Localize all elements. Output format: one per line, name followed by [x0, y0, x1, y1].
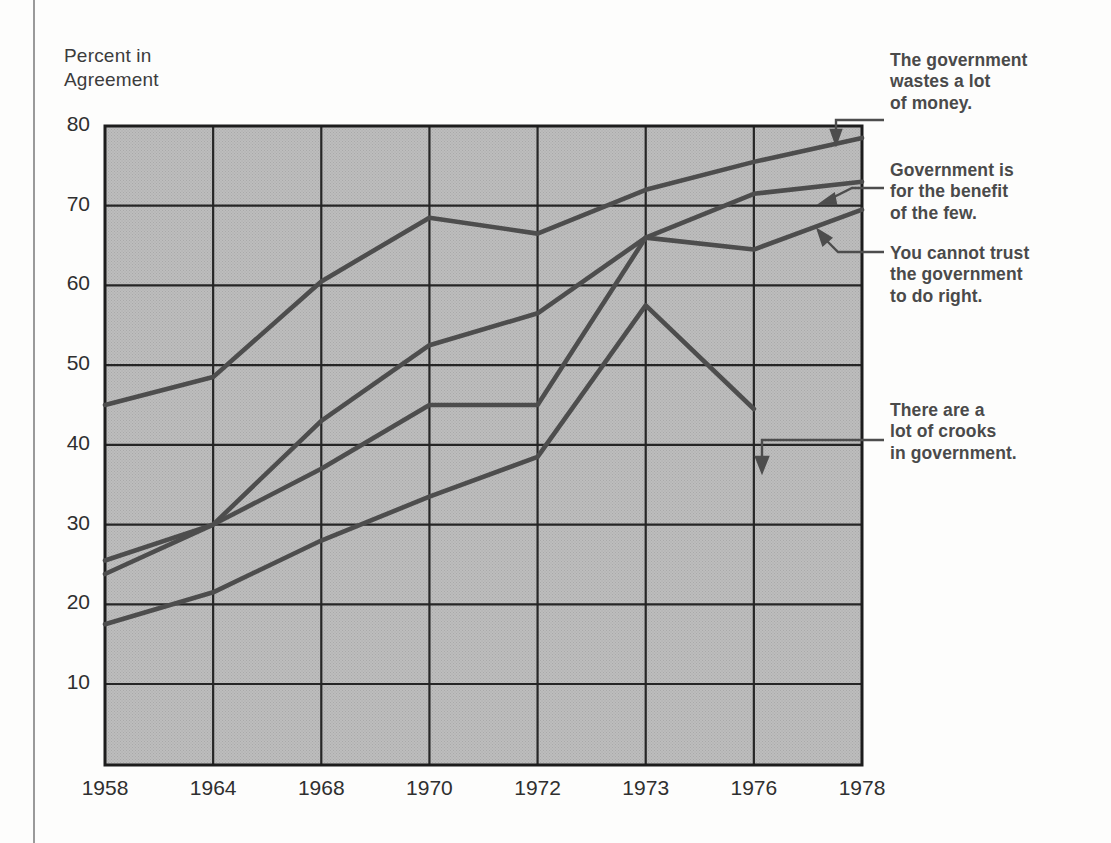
x-tick-1973: 1973 [601, 776, 691, 800]
y-tick-20: 20 [44, 590, 90, 614]
callout-benefit-of-few: Government is for the benefit of the few… [890, 160, 1014, 224]
x-tick-1964: 1964 [168, 776, 258, 800]
y-tick-50: 50 [44, 351, 90, 375]
x-tick-1958: 1958 [60, 776, 150, 800]
x-tick-1970: 1970 [384, 776, 474, 800]
y-tick-30: 30 [44, 511, 90, 535]
y-tick-10: 10 [44, 670, 90, 694]
callout-cannot-trust: You cannot trust the government to do ri… [890, 243, 1029, 307]
y-tick-80: 80 [44, 112, 90, 136]
x-tick-1972: 1972 [493, 776, 583, 800]
y-tick-40: 40 [44, 431, 90, 455]
callout-crooks: There are a lot of crooks in government. [890, 400, 1017, 464]
x-tick-1968: 1968 [276, 776, 366, 800]
callout-wastes-money: The government wastes a lot of money. [890, 50, 1028, 114]
x-tick-1976: 1976 [709, 776, 799, 800]
x-tick-1978: 1978 [817, 776, 907, 800]
chart-figure: Percent in Agreement 80706 [0, 0, 1111, 843]
y-tick-70: 70 [44, 192, 90, 216]
y-tick-60: 60 [44, 271, 90, 295]
